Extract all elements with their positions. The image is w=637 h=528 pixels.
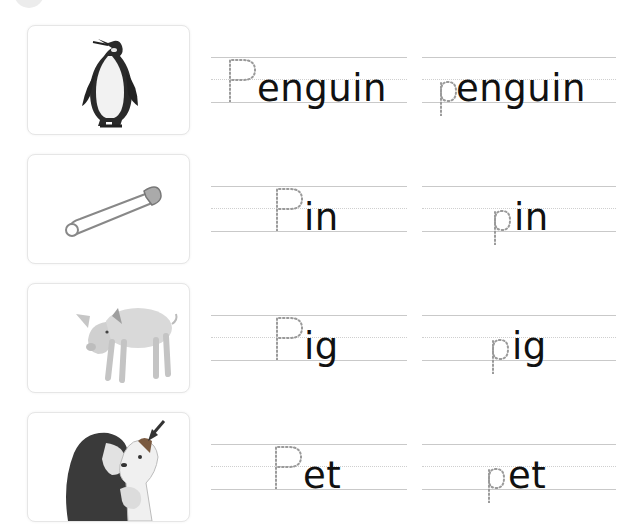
writing-lines-lowercase: enguin — [422, 57, 616, 103]
top-line — [211, 315, 407, 316]
top-line — [211, 186, 407, 187]
traced-uppercase-P-icon — [274, 316, 306, 360]
traced-lowercase-p-icon — [490, 338, 510, 374]
traced-lowercase-p-icon — [492, 209, 512, 245]
top-line — [422, 444, 616, 445]
writing-lines-uppercase: ig — [211, 315, 407, 361]
word-remainder: in — [304, 195, 339, 241]
pig-icon — [28, 284, 189, 392]
writing-lines-lowercase: et — [422, 444, 616, 490]
top-line — [422, 57, 616, 58]
writing-lines-uppercase: et — [211, 444, 407, 490]
word-remainder: et — [303, 453, 341, 499]
word-remainder: enguin — [257, 66, 387, 112]
picture-card-pin — [27, 154, 190, 264]
word-remainder: et — [508, 453, 546, 499]
writing-lines-lowercase: in — [422, 186, 616, 232]
word-remainder: ig — [304, 324, 339, 370]
picture-card-pig — [27, 283, 190, 393]
traced-uppercase-P-icon — [227, 58, 259, 102]
worksheet-row-pet: et et — [0, 412, 637, 522]
traced-uppercase-P-icon — [273, 445, 305, 489]
penguin-icon — [28, 26, 189, 134]
word-remainder: enguin — [456, 66, 586, 112]
word-remainder: in — [514, 195, 549, 241]
girl-with-dog-icon — [28, 413, 189, 521]
traced-lowercase-p-icon — [486, 467, 506, 503]
page-number-badge — [14, 0, 44, 8]
picture-card-penguin — [27, 25, 190, 135]
safety-pin-icon — [28, 155, 189, 263]
writing-lines-uppercase: in — [211, 186, 407, 232]
writing-lines-lowercase: ig — [422, 315, 616, 361]
worksheet-row-penguin: enguin enguin — [0, 25, 637, 135]
picture-card-pet — [27, 412, 190, 522]
top-line — [422, 186, 616, 187]
traced-uppercase-P-icon — [274, 187, 306, 231]
word-remainder: ig — [512, 324, 547, 370]
writing-lines-uppercase: enguin — [211, 57, 407, 103]
traced-lowercase-p-icon — [438, 80, 458, 116]
worksheet-row-pin: in in — [0, 154, 637, 264]
top-line — [422, 315, 616, 316]
worksheet-row-pig: ig ig — [0, 283, 637, 393]
top-line — [211, 444, 407, 445]
